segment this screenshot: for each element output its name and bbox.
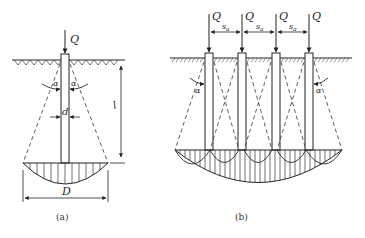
- load-label-b-2: Q: [245, 10, 254, 23]
- pile-stress-diagram: Q α α d l: [0, 0, 365, 238]
- load-arrows-b: [209, 14, 309, 52]
- load-label-b-3: Q: [279, 10, 288, 23]
- bulb-width-label-a: D: [61, 185, 71, 198]
- caption-b: (b): [235, 212, 248, 222]
- load-label-b-4: Q: [312, 10, 321, 23]
- ground-surface-b: [170, 58, 352, 62]
- piles-b: [205, 53, 313, 150]
- figure-a-single-pile: Q α α d l: [12, 30, 125, 222]
- length-label-a: l: [112, 99, 118, 110]
- spacing-label-b-1: sa: [222, 22, 230, 32]
- length-dimension-a: [110, 66, 125, 163]
- angle-label-left-a: α: [53, 79, 59, 88]
- spacing-label-b-3: sa: [289, 22, 297, 32]
- spacing-label-b-2: sa: [256, 22, 264, 32]
- angle-label-right-b: α: [316, 86, 322, 95]
- stress-spread-lines-b: [175, 62, 342, 150]
- load-label-a: Q: [70, 33, 79, 46]
- load-label-b-1: Q: [212, 10, 221, 23]
- caption-a: (a): [56, 212, 68, 222]
- angle-label-right-a: α: [71, 79, 77, 88]
- angle-label-left-b: α: [195, 86, 201, 95]
- pressure-bulb-b: [175, 150, 342, 190]
- figure-b-pile-group: Q Q Q Q sa sa sa: [170, 10, 352, 222]
- diameter-label-a: d: [62, 106, 68, 117]
